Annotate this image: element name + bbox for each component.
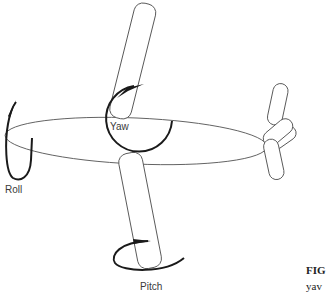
upper-wing [108,1,158,121]
yaw-label: Yaw [110,121,129,132]
tail-assembly [260,82,299,181]
figure-caption-line2: yav [306,280,322,292]
roll-arrowhead-icon [8,100,16,118]
lower-wing [117,151,163,270]
pitch-label: Pitch [140,281,162,292]
figure-caption-prefix: FIG [306,264,326,276]
yaw-arrow [106,86,172,152]
roll-label: Roll [5,184,22,195]
